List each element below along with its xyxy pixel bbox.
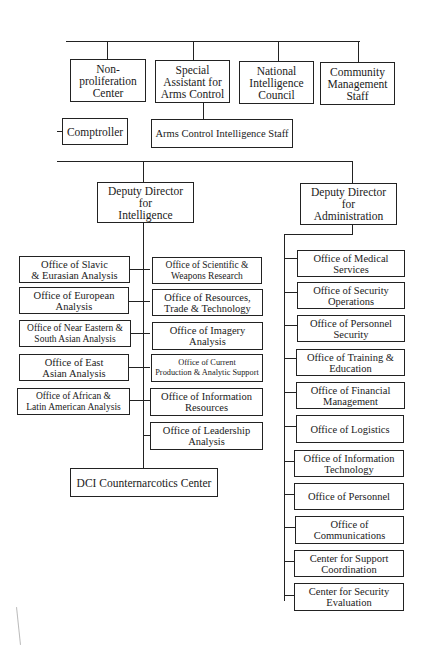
org-box-nonproliferation-center: Non- proliferation Center bbox=[70, 59, 146, 102]
box-label: Office of East Asian Analysis bbox=[42, 357, 105, 379]
box-label: Special Assistant for Arms Control bbox=[161, 64, 225, 100]
box-label: Office of Financial Management bbox=[311, 385, 391, 407]
box-label: Office of Logistics bbox=[310, 424, 389, 435]
box-label: Comptroller bbox=[67, 126, 123, 138]
org-box-deputy-director-intelligence: Deputy Director for Intelligence bbox=[97, 182, 194, 223]
connector bbox=[131, 333, 150, 334]
connector bbox=[284, 358, 296, 359]
box-label: Center for Security Evaluation bbox=[309, 586, 389, 608]
box-label: DCI Counternarcotics Center bbox=[77, 477, 212, 489]
org-box-leadership-analysis: Office of Leadership Analysis bbox=[150, 422, 263, 450]
connector bbox=[143, 435, 150, 436]
org-box-imagery-analysis: Office of Imagery Analysis bbox=[152, 322, 263, 350]
box-label: Deputy Director for Intelligence bbox=[108, 185, 183, 221]
org-box-european-analysis: Office of European Analysis bbox=[19, 287, 129, 314]
org-box-security-operations: Office of Security Operations bbox=[297, 282, 405, 309]
connector bbox=[358, 41, 359, 62]
org-box-training-education: Office of Training & Education bbox=[296, 349, 405, 376]
box-label: Arms Control Intelligence Staff bbox=[155, 128, 288, 139]
connector bbox=[130, 269, 150, 270]
box-label: Office of Medical Services bbox=[313, 253, 388, 275]
org-box-resources-trade-technology: Office of Resources, Trade & Technology bbox=[152, 289, 263, 316]
org-box-security-evaluation: Center for Security Evaluation bbox=[294, 583, 404, 611]
connector bbox=[203, 102, 204, 119]
box-label: Office of Information Resources bbox=[161, 391, 252, 413]
box-label: Office of Current Production & Analytic … bbox=[155, 358, 258, 378]
org-box-medical-services: Office of Medical Services bbox=[297, 250, 405, 277]
connector bbox=[129, 367, 150, 368]
connector bbox=[284, 527, 295, 528]
connector bbox=[193, 41, 194, 60]
connector bbox=[284, 392, 296, 393]
org-box-current-production-analytic-support: Office of Current Production & Analytic … bbox=[151, 354, 263, 382]
box-label: Office of Near Eastern & South Asian Ana… bbox=[27, 323, 123, 345]
org-box-information-technology: Office of Information Technology bbox=[294, 450, 404, 477]
box-label: Office of Imagery Analysis bbox=[170, 325, 246, 347]
org-box-near-eastern-south-asian-analysis: Office of Near Eastern & South Asian Ana… bbox=[19, 320, 131, 347]
box-label: Community Management Staff bbox=[327, 66, 387, 102]
box-label: Deputy Director for Administration bbox=[311, 186, 386, 222]
org-box-support-coordination: Center for Support Coordination bbox=[294, 550, 404, 577]
org-box-arms-control-intelligence-staff: Arms Control Intelligence Staff bbox=[151, 119, 293, 148]
top-bus-line bbox=[66, 41, 360, 42]
org-box-scientific-weapons-research: Office of Scientific & Weapons Research bbox=[152, 257, 262, 284]
org-box-community-management-staff: Community Management Staff bbox=[320, 62, 395, 105]
box-label: Center for Support Coordination bbox=[310, 553, 389, 575]
org-box-financial-management: Office of Financial Management bbox=[296, 382, 405, 409]
connector bbox=[352, 224, 353, 234]
box-label: Office of Security Operations bbox=[313, 285, 389, 307]
connector bbox=[130, 400, 150, 401]
box-label: National Intelligence Council bbox=[249, 65, 303, 101]
box-label: Office of Scientific & Weapons Research bbox=[166, 260, 249, 282]
box-label: Non- proliferation Center bbox=[79, 63, 136, 99]
connector bbox=[284, 292, 297, 293]
connector bbox=[284, 561, 294, 562]
org-box-logistics: Office of Logistics bbox=[296, 415, 404, 443]
connector bbox=[352, 161, 353, 183]
org-box-information-resources: Office of Information Resources bbox=[150, 388, 263, 416]
org-box-personnel-security: Office of Personnel Security bbox=[297, 315, 405, 342]
connector bbox=[284, 595, 294, 596]
connector bbox=[284, 494, 294, 495]
ddi-spine-line bbox=[143, 223, 144, 468]
box-label: Office of European Analysis bbox=[34, 290, 115, 312]
org-box-national-intelligence-council: National Intelligence Council bbox=[239, 61, 314, 104]
org-box-communications: Office of Communications bbox=[295, 516, 404, 544]
org-box-dci-counternarcotics-center: DCI Counternarcotics Center bbox=[70, 468, 218, 497]
connector bbox=[129, 301, 150, 302]
deputy-bus-line bbox=[57, 161, 353, 162]
connector bbox=[284, 234, 353, 235]
box-label: Office of Personnel bbox=[308, 491, 390, 502]
box-label: Office of African & Latin American Analy… bbox=[26, 391, 120, 413]
box-label: Office of Slavic & Eurasian Analysis bbox=[31, 259, 117, 281]
connector bbox=[284, 461, 294, 462]
connector bbox=[143, 161, 144, 182]
box-label: Office of Leadership Analysis bbox=[163, 425, 250, 447]
org-box-deputy-director-administration: Deputy Director for Administration bbox=[300, 183, 397, 225]
org-box-african-latin-american-analysis: Office of African & Latin American Analy… bbox=[17, 388, 130, 415]
connector bbox=[278, 41, 279, 61]
box-label: Office of Communications bbox=[314, 519, 386, 541]
connector bbox=[284, 426, 296, 427]
org-box-comptroller: Comptroller bbox=[62, 118, 128, 145]
org-box-slavic-eurasian-analysis: Office of Slavic & Eurasian Analysis bbox=[19, 256, 130, 283]
org-box-personnel: Office of Personnel bbox=[294, 483, 404, 510]
org-box-east-asian-analysis: Office of East Asian Analysis bbox=[19, 354, 129, 381]
connector bbox=[284, 325, 297, 326]
org-box-special-assistant-arms-control: Special Assistant for Arms Control bbox=[155, 60, 230, 103]
connector bbox=[284, 258, 297, 259]
box-label: Office of Information Technology bbox=[304, 453, 395, 475]
connector bbox=[107, 41, 108, 59]
box-label: Office of Personnel Security bbox=[310, 318, 392, 340]
box-label: Office of Training & Education bbox=[307, 352, 394, 374]
dda-spine-line bbox=[284, 234, 285, 601]
box-label: Office of Resources, Trade & Technology bbox=[164, 292, 251, 314]
scan-artifact-line bbox=[16, 607, 21, 645]
